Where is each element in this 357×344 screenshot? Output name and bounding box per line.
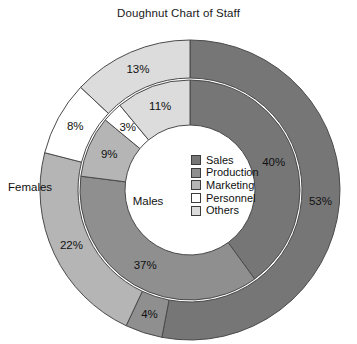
outer-ring-name-label: Females	[8, 181, 52, 193]
legend-item-label: Sales	[206, 155, 234, 166]
chart-legend: SalesProductionMarketingPersonnelOthers	[191, 154, 259, 217]
legend-swatch-others	[191, 206, 201, 216]
donut-slice-label: 8%	[67, 120, 84, 132]
donut-slice-label: 4%	[141, 308, 158, 320]
doughnut-chart-svg: 53%4%22%8%13% 40%37%9%3%11% Males	[0, 0, 357, 344]
donut-slice-label: 40%	[262, 156, 285, 168]
legend-swatch-personnel	[191, 193, 201, 203]
inner-ring-name-label: Males	[133, 195, 164, 207]
legend-item-label: Production	[206, 167, 259, 178]
donut-slice-label: 13%	[126, 63, 149, 75]
legend-item[interactable]: Marketing	[191, 179, 259, 192]
legend-swatch-marketing	[191, 180, 201, 190]
legend-swatch-sales	[191, 155, 201, 165]
donut-slice-label: 53%	[309, 195, 332, 207]
inner-ring-males	[80, 80, 300, 300]
legend-item[interactable]: Others	[191, 204, 259, 217]
donut-slice-label: 11%	[149, 100, 171, 112]
legend-swatch-production	[191, 168, 201, 178]
donut-slice-label: 37%	[134, 259, 157, 271]
donut-slice-label: 3%	[119, 121, 136, 133]
legend-item-label: Personnel	[206, 193, 256, 204]
donut-slice-label: 22%	[60, 239, 83, 251]
doughnut-chart-figure: Doughnut Chart of Staff 53%4%22%8%13% 40…	[0, 0, 357, 344]
legend-item[interactable]: Production	[191, 167, 259, 180]
legend-item-label: Others	[206, 205, 239, 216]
legend-item[interactable]: Personnel	[191, 192, 259, 205]
legend-item-label: Marketing	[206, 180, 254, 191]
donut-slice-label: 9%	[101, 148, 118, 160]
legend-item[interactable]: Sales	[191, 154, 259, 167]
